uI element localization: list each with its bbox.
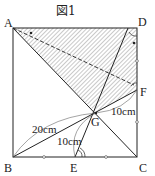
label-A: A	[4, 16, 13, 30]
label-D: D	[138, 15, 147, 29]
label-F: F	[140, 85, 147, 99]
figure-svg: 図1 A D F G B E C 20cm 10cm 10cm	[0, 0, 155, 176]
label-C: C	[139, 161, 147, 175]
length-GF: 10cm	[111, 105, 136, 117]
point-G	[95, 112, 97, 114]
geometry-figure: 図1 A D F G B E C 20cm 10cm 10cm	[0, 0, 155, 176]
label-G: G	[91, 115, 100, 129]
label-E: E	[70, 161, 77, 175]
tick-DF	[136, 60, 139, 63]
dot-mark-D	[133, 42, 136, 45]
tick-EC	[105, 156, 108, 159]
length-BG: 20cm	[32, 123, 57, 135]
dot-mark-A	[30, 32, 33, 35]
tick-FC	[136, 121, 139, 124]
length-EG: 10cm	[57, 135, 82, 147]
angle-mark-E	[78, 150, 82, 157]
label-B: B	[4, 161, 12, 175]
figure-title: 図1	[56, 4, 76, 18]
tick-BE	[43, 156, 46, 159]
